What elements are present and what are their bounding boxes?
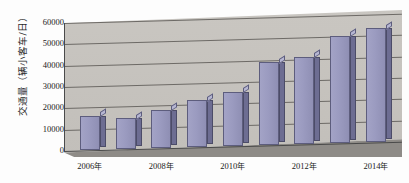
x-axis-tick-label: 2010年 (209, 160, 257, 171)
y-axis-tick-labels: 0100002000030000400005000060000 (17, 0, 64, 183)
bar (187, 100, 207, 147)
bar-front-face (366, 28, 386, 142)
bar-front-face (330, 36, 350, 144)
bar-side-face (136, 118, 142, 146)
bar (116, 118, 136, 149)
bar (294, 57, 314, 144)
x-axis-tick-labels: 2006年2008年2010年2012年2014年 (0, 160, 409, 176)
y-axis-tick-label: 10000 (18, 125, 64, 134)
bar-side-face (314, 57, 320, 141)
bar (223, 92, 243, 146)
y-axis-tick-label: 30000 (18, 82, 64, 91)
bar (330, 36, 350, 144)
bar-side-face (100, 116, 106, 147)
y-axis-tick-label: 0 (18, 146, 64, 155)
bar-front-face (223, 92, 243, 146)
bar-side-face (386, 28, 392, 139)
bar-front-face (259, 62, 279, 145)
y-axis-line (64, 23, 65, 152)
bar-chart: 交通量（辆小客车/日） 0100002000030000400005000060… (0, 0, 409, 183)
bar-front-face (151, 110, 171, 148)
bar-side-face (279, 62, 285, 142)
x-axis-tick-label: 2006年 (66, 160, 114, 171)
x-axis-tick-label: 2012年 (280, 160, 328, 171)
plot-area (64, 10, 402, 157)
bar (151, 110, 171, 148)
y-axis-tick-label: 60000 (18, 18, 64, 27)
bar-side-face (171, 110, 177, 145)
y-axis-tick-label: 40000 (18, 61, 64, 70)
y-axis-tick-label: 20000 (18, 103, 64, 112)
bar-side-face (350, 36, 356, 140)
bar-front-face (294, 57, 314, 144)
bar-front-face (116, 118, 136, 149)
bar-side-face (243, 92, 249, 143)
bar (259, 62, 279, 145)
bar (80, 116, 100, 150)
bar (366, 28, 386, 142)
x-axis-tick-label: 2014年 (352, 160, 400, 171)
bar-side-face (207, 100, 213, 144)
bar-front-face (187, 100, 207, 147)
bar-front-face (80, 116, 100, 150)
y-axis-tick-label: 50000 (18, 39, 64, 48)
x-axis-tick-label: 2008年 (137, 160, 185, 171)
